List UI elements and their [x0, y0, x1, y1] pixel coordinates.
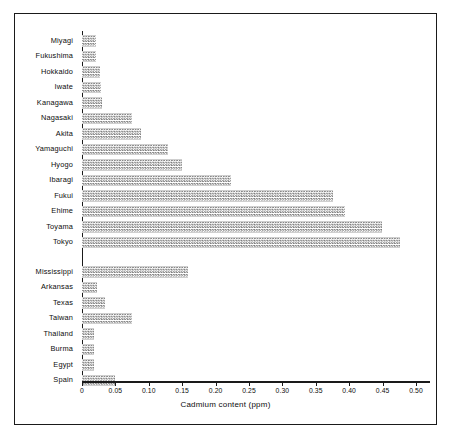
bar-row-label-cell: Arkansas [21, 280, 73, 296]
x-tick [149, 381, 150, 386]
bar [82, 175, 231, 187]
bar-row: Hyogo [15, 157, 436, 173]
x-tick-label: 0.50 [409, 387, 423, 394]
x-axis-line [82, 381, 430, 383]
bar [82, 35, 96, 47]
bar-row: Fukui [15, 188, 436, 204]
bar-cell [82, 95, 432, 111]
bar-row-label-cell: Burma [21, 342, 73, 358]
x-tick [216, 381, 217, 386]
x-tick [416, 381, 417, 386]
x-tick-label: 0.30 [276, 387, 290, 394]
x-tick-label: 0.40 [342, 387, 356, 394]
category-label: Kanagawa [0, 99, 73, 106]
bar-row: Egypt [15, 357, 436, 373]
bar-cell [82, 280, 432, 296]
bar-row-label-cell: Mississippi [21, 264, 73, 280]
bar-cell [82, 357, 432, 373]
bar-row-label-cell: Ehime [21, 204, 73, 220]
x-tick-label: 0.15 [175, 387, 189, 394]
bar [82, 282, 97, 294]
bar-cell [82, 264, 432, 280]
x-tick-label: 0.35 [309, 387, 323, 394]
bar-row-label-cell: Toyama [21, 219, 73, 235]
category-label: Spain [0, 377, 73, 384]
category-label: Hyogo [0, 161, 73, 168]
x-tick-label: 0 [80, 387, 84, 394]
bar-cell [82, 342, 432, 358]
bar-row-label-cell: Fukui [21, 188, 73, 204]
bar-cell [82, 173, 432, 189]
bar-row-label-cell: Ibaragi [21, 173, 73, 189]
category-label: Mississippi [0, 268, 73, 275]
bar [82, 159, 182, 171]
bar-row: Mississippi [15, 264, 436, 280]
category-label: Tokyo [0, 239, 73, 246]
x-tick [383, 381, 384, 386]
bar-cell [82, 204, 432, 220]
category-label: Texas [0, 299, 73, 306]
bar-row: Yamaguchi [15, 142, 436, 158]
bar-row-label-cell: Fukushima [21, 49, 73, 65]
bar [82, 128, 141, 140]
x-tick-label: 0.10 [142, 387, 156, 394]
bar-cell [82, 311, 432, 327]
bar-row-label-cell: Yamaguchi [21, 142, 73, 158]
bar [82, 313, 132, 325]
x-tick [249, 381, 250, 386]
category-label: Fukui [0, 192, 73, 199]
bar [82, 97, 102, 109]
bar-cell [82, 235, 432, 251]
bar-row: Hokkaido [15, 64, 436, 80]
bar [82, 266, 188, 278]
category-label: Akita [0, 130, 73, 137]
bar [82, 144, 168, 156]
bar-row: Akita [15, 126, 436, 142]
category-label: Fukushima [0, 53, 73, 60]
x-tick-label: 0.20 [209, 387, 223, 394]
bar [82, 113, 132, 125]
bar-cell [82, 111, 432, 127]
bar-cell [82, 33, 432, 49]
bar-row-label-cell: Egypt [21, 357, 73, 373]
x-tick [182, 381, 183, 386]
bar-row: Burma [15, 342, 436, 358]
bar-row: Iwate [15, 80, 436, 96]
bar-row: Miyagi [15, 33, 436, 49]
bar-row-label-cell: Akita [21, 126, 73, 142]
x-tick [82, 381, 83, 386]
bar-row: Arkansas [15, 280, 436, 296]
bar [82, 328, 94, 340]
bar [82, 237, 400, 249]
bar-row-label-cell: Kanagawa [21, 95, 73, 111]
bar [82, 221, 382, 233]
bar [82, 51, 96, 63]
bar-row: Toyama [15, 219, 436, 235]
category-label: Ehime [0, 208, 73, 215]
x-axis-title: Cadmium content (ppm) [15, 400, 436, 409]
bar [82, 297, 105, 309]
category-label: Burma [0, 346, 73, 353]
bar [82, 344, 94, 356]
category-label: Iwate [0, 84, 73, 91]
plot-area: MiyagiFukushimaHokkaidoIwateKanagawaNaga… [15, 14, 436, 424]
bar-cell [82, 49, 432, 65]
bar-cell [82, 142, 432, 158]
x-tick-label: 0.25 [242, 387, 256, 394]
bar-cell [82, 295, 432, 311]
bar-row: Thailand [15, 326, 436, 342]
bar-cell [82, 126, 432, 142]
x-tick [316, 381, 317, 386]
bar-row: Nagasaki [15, 111, 436, 127]
bar-cell [82, 188, 432, 204]
category-label: Hokkaido [0, 68, 73, 75]
bar-row: Ehime [15, 204, 436, 220]
category-label: Yamaguchi [0, 146, 73, 153]
bar-row: Taiwan [15, 311, 436, 327]
bar-row: Fukushima [15, 49, 436, 65]
bar-row-label-cell: Miyagi [21, 33, 73, 49]
x-tick-label: 0.05 [109, 387, 123, 394]
category-label: Arkansas [0, 284, 73, 291]
bar [82, 66, 100, 78]
bar-row-label-cell: Texas [21, 295, 73, 311]
